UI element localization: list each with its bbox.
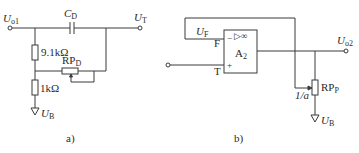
output-terminal-uo2: [344, 49, 348, 53]
input-terminal-t: [166, 63, 170, 67]
output-terminal-ut: [138, 26, 142, 30]
ground-symbol-a: [31, 108, 39, 115]
label-rpd: RPD: [62, 54, 81, 68]
resistor-9-1k: [32, 45, 38, 60]
label-uo1: Uo1: [3, 12, 19, 26]
label-uo2: Uo2: [337, 34, 353, 48]
circuit-diagram: Uo1 CD UT 9.1kΩ 1kΩ UB RPD a: [0, 0, 359, 153]
label-1k: 1kΩ: [40, 82, 59, 94]
label-cd: CD: [64, 7, 77, 21]
minus-sign: −: [227, 33, 232, 43]
label-rpp: RPP: [321, 81, 339, 95]
caption-b: b): [234, 132, 244, 145]
pin-t: T: [214, 65, 221, 77]
label-wiper-ratio: 1/a: [295, 89, 310, 101]
potentiometer-rpd: [62, 68, 78, 74]
ground-symbol-b: [311, 115, 319, 122]
input-terminal-uo1: [8, 26, 12, 30]
panel-a: Uo1 CD UT 9.1kΩ 1kΩ UB RPD a: [3, 7, 147, 145]
label-uf: UF: [196, 25, 209, 39]
potentiometer-rpp: [312, 80, 318, 95]
label-ub-a: UB: [41, 107, 54, 121]
label-ut: UT: [134, 11, 147, 25]
caption-a: a): [66, 132, 75, 145]
resistor-1k: [32, 80, 38, 95]
label-ub-b: UB: [321, 114, 334, 128]
plus-sign: +: [227, 60, 232, 70]
panel-b: ▷∞ A2 − + F T UF Uo2 RPP 1/a UB b): [166, 18, 353, 145]
opamp-gain-symbol: ▷∞: [234, 31, 247, 41]
